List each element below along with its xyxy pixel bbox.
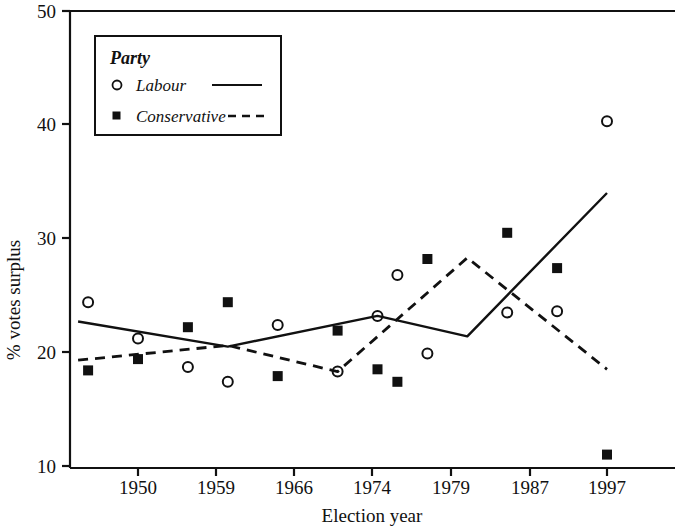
data-point-conservative-11 xyxy=(602,450,612,460)
chart-svg: 50 40 30 20 10 % votes surplus 1950 1959… xyxy=(0,0,675,532)
data-point-labour-10 xyxy=(552,306,562,316)
y-tick-label-20: 20 xyxy=(37,342,56,363)
data-point-conservative-4 xyxy=(273,371,283,381)
data-point-conservative-5 xyxy=(333,326,343,336)
y-axis-title: % votes surplus xyxy=(3,240,24,360)
data-point-labour-7 xyxy=(392,270,402,280)
x-tick-label-1987: 1987 xyxy=(511,477,549,498)
data-point-labour-11 xyxy=(602,116,612,126)
series-trend-lines xyxy=(78,193,607,372)
x-tick-label-1950: 1950 xyxy=(119,477,157,498)
x-tick-label-1966: 1966 xyxy=(275,477,313,498)
y-tick-label-40: 40 xyxy=(37,114,56,135)
series-markers xyxy=(83,116,612,459)
x-axis-ticks xyxy=(138,468,607,476)
data-point-labour-2 xyxy=(183,362,193,372)
data-point-conservative-10 xyxy=(552,263,562,273)
y-tick-label-50: 50 xyxy=(37,1,56,22)
y-tick-label-10: 10 xyxy=(37,456,56,477)
trend-line-labour xyxy=(78,193,607,347)
data-point-conservative-0 xyxy=(83,365,93,375)
y-axis-ticks xyxy=(62,11,70,466)
legend-marker-filled-square-icon xyxy=(113,112,121,120)
legend-title: Party xyxy=(109,48,151,68)
data-point-conservative-3 xyxy=(223,297,233,307)
legend-label-labour: Labour xyxy=(135,76,186,95)
legend-label-conservative: Conservative xyxy=(136,107,226,126)
data-point-conservative-1 xyxy=(133,354,143,364)
data-point-conservative-8 xyxy=(422,254,432,264)
y-tick-label-30: 30 xyxy=(37,228,56,249)
x-tick-label-1979: 1979 xyxy=(432,477,470,498)
data-point-conservative-7 xyxy=(392,377,402,387)
data-point-labour-4 xyxy=(273,320,283,330)
data-point-labour-1 xyxy=(133,334,143,344)
x-tick-label-1974: 1974 xyxy=(353,477,392,498)
chart-figure: 50 40 30 20 10 % votes surplus 1950 1959… xyxy=(0,0,675,532)
data-point-labour-3 xyxy=(223,377,233,387)
data-point-conservative-2 xyxy=(183,322,193,332)
x-tick-label-1997: 1997 xyxy=(588,477,626,498)
data-point-labour-9 xyxy=(502,307,512,317)
legend: Party Labour Conservative xyxy=(95,36,281,135)
x-tick-label-1959: 1959 xyxy=(197,477,235,498)
data-point-labour-0 xyxy=(83,297,93,307)
x-axis-title: Election year xyxy=(322,505,423,526)
data-point-conservative-6 xyxy=(373,364,383,374)
data-point-conservative-9 xyxy=(502,228,512,238)
data-point-labour-8 xyxy=(422,348,432,358)
